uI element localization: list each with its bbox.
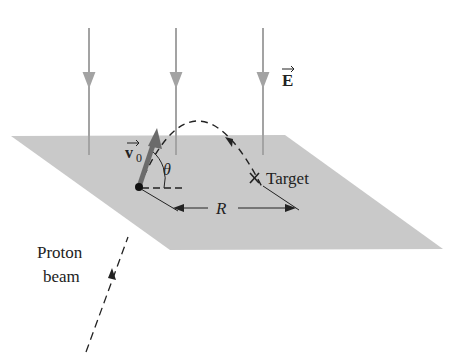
projectile-diagram: E θ v 0 Target R Proton beam <box>0 0 461 364</box>
field-label: E <box>282 66 294 90</box>
range-label: R <box>215 199 227 218</box>
svg-text:E: E <box>282 71 293 90</box>
beam-label-line1: Proton <box>37 243 83 262</box>
field-arrow-icon <box>171 73 181 86</box>
angle-label: θ <box>163 161 171 178</box>
field-arrow-icon <box>84 73 94 86</box>
horizontal-plane <box>11 135 443 250</box>
field-arrow-icon <box>258 73 268 86</box>
svg-text:v: v <box>125 144 133 161</box>
beam-label-line2: beam <box>43 267 80 286</box>
proton-beam-path <box>86 237 128 352</box>
target-label: Target <box>266 169 309 188</box>
svg-text:0: 0 <box>136 151 142 165</box>
